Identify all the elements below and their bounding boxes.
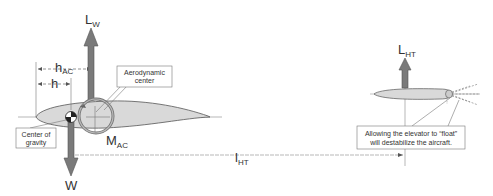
center-of-gravity-icon: [66, 112, 77, 123]
weight-arrow: [64, 120, 78, 176]
h-label: h: [51, 76, 58, 91]
weight-label: W: [65, 178, 78, 193]
moment-label: MAC: [106, 133, 128, 150]
wing-airfoil: [36, 101, 210, 128]
stability-diagram: LW LHT W hAC h MAC lHT Aerodynamic cente…: [0, 0, 493, 196]
cg-text-1: Center of: [22, 131, 51, 138]
cg-text-2: gravity: [26, 139, 47, 147]
h-ac-label: hAC: [55, 60, 74, 76]
wing-lift-label: LW: [85, 12, 100, 29]
tail-lift-label: LHT: [398, 42, 416, 59]
tail-arm-label: lHT: [235, 150, 249, 167]
tail-lift-arrow: [399, 58, 411, 88]
elevator-text-2: will destabilize the aircraft.: [369, 139, 452, 146]
elevator-text-1: Allowing the elevator to “float”: [365, 130, 458, 138]
aero-center-text-2: center: [135, 77, 155, 84]
tail-airfoil: [374, 89, 451, 100]
wing-lift-arrow: [84, 28, 98, 100]
aero-center-text-1: Aerodynamic: [124, 69, 165, 77]
elevator: [446, 90, 453, 98]
